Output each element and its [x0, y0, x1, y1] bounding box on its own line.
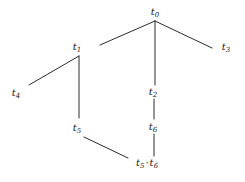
node-label-t5: t5	[73, 123, 82, 133]
tree-edges-canvas	[0, 0, 245, 182]
node-subscript: 5	[77, 127, 81, 135]
edge-group	[29, 21, 212, 158]
node-label-t3: t3	[222, 42, 231, 52]
node-subscript: 2	[153, 91, 157, 99]
node-label-t5t6: t5·t6	[136, 158, 158, 168]
tree-edge-t5-t5t6	[84, 137, 128, 158]
tree-edge-t0-t1	[100, 21, 155, 45]
node-label-t6: t6	[149, 122, 158, 132]
node-subscript: 3	[226, 46, 230, 54]
node-label-t1: t1	[73, 42, 82, 52]
node-subscript: 6	[153, 126, 157, 134]
tree-diagram-figure: t0t1t3t4t2t5t6t5·t6	[0, 0, 245, 182]
tree-edge-t0-t3	[155, 21, 212, 48]
node-label-t2: t2	[149, 87, 158, 97]
node-subscript-2: 6	[154, 162, 158, 170]
node-label-t0: t0	[151, 7, 160, 17]
node-subscript: 1	[77, 46, 81, 54]
node-subscript: 4	[16, 92, 20, 100]
node-label-t4: t4	[12, 88, 21, 98]
node-subscript: 0	[155, 11, 159, 19]
tree-edge-t1-t4	[29, 56, 79, 85]
node-subscript: 5	[140, 162, 144, 170]
